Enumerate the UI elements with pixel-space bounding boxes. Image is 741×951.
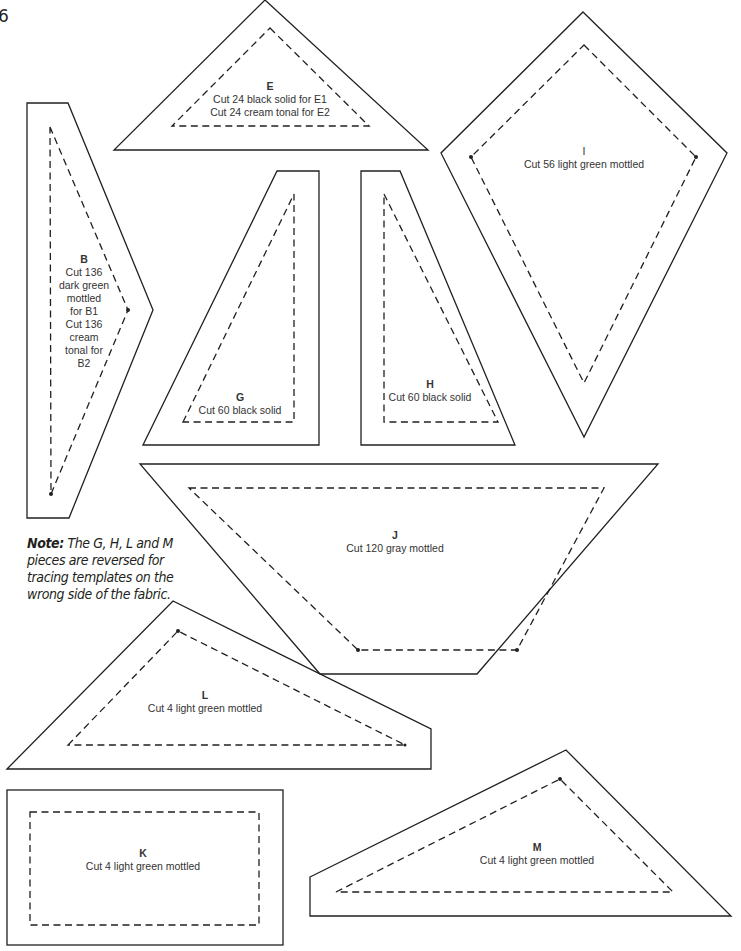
template-m xyxy=(310,750,731,916)
template-b-dot xyxy=(49,492,53,496)
template-b-letter: B xyxy=(54,253,114,266)
template-l xyxy=(7,601,431,769)
template-b-instruction: B2 xyxy=(54,357,114,370)
template-k-label: K Cut 4 light green mottled xyxy=(68,847,218,873)
template-i-cutting-line xyxy=(441,12,727,437)
template-k-letter: K xyxy=(68,847,218,860)
template-i-letter: I xyxy=(504,145,664,158)
template-b-instruction: tonal for xyxy=(54,344,114,357)
template-h-instruction: Cut 60 black solid xyxy=(375,391,485,404)
template-m-sewing-line xyxy=(336,779,673,892)
template-b-instruction: Cut 136 xyxy=(54,266,114,279)
template-b-label: B Cut 136 dark green mottled for B1 Cut … xyxy=(54,253,114,370)
template-i-dot xyxy=(469,155,473,159)
template-h-letter: H xyxy=(375,378,485,391)
template-shapes xyxy=(0,0,741,951)
template-e-letter: E xyxy=(190,80,350,93)
template-i-dot xyxy=(694,155,698,159)
template-i-label: I Cut 56 light green mottled xyxy=(504,145,664,171)
template-j-instruction: Cut 120 gray mottled xyxy=(330,542,460,555)
template-e xyxy=(114,0,428,150)
template-b-instruction: Cut 136 xyxy=(54,318,114,331)
note-prefix: Note: xyxy=(27,535,64,551)
reversal-note: Note: The G, H, L and M pieces are rever… xyxy=(27,535,177,603)
template-l-dot xyxy=(404,744,407,747)
template-m-instruction: Cut 4 light green mottled xyxy=(462,854,612,867)
template-j-sewing-line xyxy=(189,488,604,650)
template-k-instruction: Cut 4 light green mottled xyxy=(68,860,218,873)
template-j-letter: J xyxy=(330,529,460,542)
template-j-dot xyxy=(356,648,360,652)
template-j-label: J Cut 120 gray mottled xyxy=(330,529,460,555)
template-e-instruction: Cut 24 cream tonal for E2 xyxy=(190,106,350,119)
template-m-letter: M xyxy=(462,841,612,854)
template-m-label: M Cut 4 light green mottled xyxy=(462,841,612,867)
template-g-sewing-line xyxy=(183,194,294,422)
template-j xyxy=(140,464,658,674)
template-l-letter: L xyxy=(130,689,280,702)
template-e-label: E Cut 24 black solid for E1 Cut 24 cream… xyxy=(190,80,350,119)
template-b-instruction: for B1 xyxy=(54,305,114,318)
template-l-sewing-line xyxy=(68,631,405,745)
template-l-dot xyxy=(176,629,180,633)
template-g-label: G Cut 60 black solid xyxy=(185,391,295,417)
template-g-instruction: Cut 60 black solid xyxy=(185,404,295,417)
template-h-label: H Cut 60 black solid xyxy=(375,378,485,404)
template-e-instruction: Cut 24 black solid for E1 xyxy=(190,93,350,106)
template-b-instruction: mottled xyxy=(54,292,114,305)
template-m-dot xyxy=(558,777,562,781)
template-l-label: L Cut 4 light green mottled xyxy=(130,689,280,715)
template-j-dot xyxy=(515,648,519,652)
template-i-sewing-line xyxy=(471,45,696,383)
template-j-cutting-line xyxy=(140,464,658,674)
template-b-instruction: cream xyxy=(54,331,114,344)
template-e-cutting-line xyxy=(114,0,428,150)
template-b-instruction: dark green xyxy=(54,279,114,292)
template-l-cutting-line xyxy=(7,601,431,769)
template-i xyxy=(441,12,727,437)
template-i-instruction: Cut 56 light green mottled xyxy=(504,158,664,171)
template-l-instruction: Cut 4 light green mottled xyxy=(130,702,280,715)
template-g-letter: G xyxy=(185,391,295,404)
template-b-dot xyxy=(126,308,130,312)
template-m-cutting-line xyxy=(310,750,731,916)
